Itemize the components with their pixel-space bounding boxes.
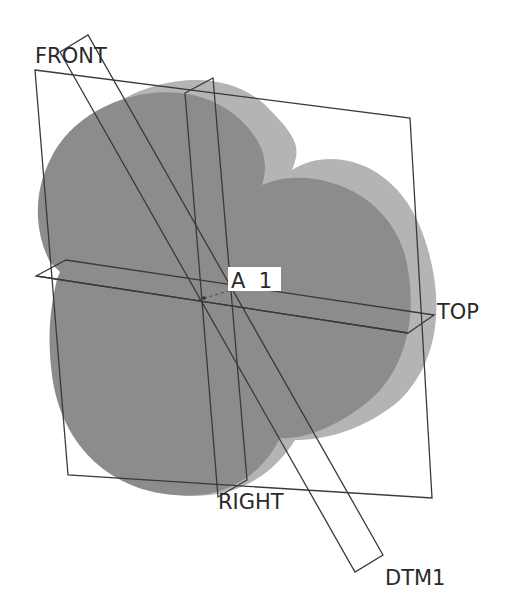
- label-dtm1[interactable]: DTM1: [385, 566, 445, 590]
- model-viewport[interactable]: FRONT A 1 TOP RIGHT DTM1: [0, 0, 520, 602]
- label-axis-a1[interactable]: A 1: [231, 269, 272, 293]
- label-front[interactable]: FRONT: [35, 44, 107, 68]
- label-right[interactable]: RIGHT: [218, 490, 284, 514]
- label-top[interactable]: TOP: [436, 300, 479, 324]
- model-front-face[interactable]: [38, 92, 411, 495]
